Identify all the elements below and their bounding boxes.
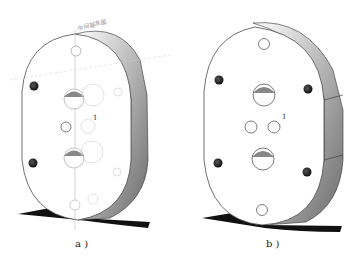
bottom-hole [257, 205, 268, 216]
panel-a: 中间基准面 1 [10, 17, 170, 230]
pin-hole-icon [304, 85, 313, 94]
angled-hole [268, 121, 280, 133]
pin-hole-icon [303, 168, 312, 177]
angled-hole [245, 121, 257, 133]
angled-hole [61, 122, 71, 132]
panel-b: 1 [202, 23, 343, 232]
pin-hole-icon [214, 159, 223, 168]
axis-label: 1 [282, 113, 286, 121]
bottom-hole [70, 200, 80, 210]
plate-front [22, 34, 131, 220]
top-hole [259, 39, 270, 50]
axis-label: 1 [93, 114, 97, 122]
reference-plane-label: 中间基准面 [76, 17, 107, 32]
figure-canvas: 中间基准面 1 1 [0, 0, 357, 263]
plate-front [204, 27, 324, 225]
caption-a: a ) [75, 238, 88, 249]
pin-hole-icon [215, 76, 224, 85]
caption-b: b ) [266, 238, 279, 249]
pin-hole-icon [30, 82, 39, 91]
top-hole [71, 46, 81, 56]
pin-hole-icon [29, 159, 38, 168]
